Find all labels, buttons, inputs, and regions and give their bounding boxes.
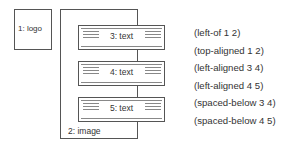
image-label: 2: image	[68, 126, 101, 136]
constraint-item: (left-of 1 2)	[194, 24, 276, 42]
constraint-item: (top-aligned 1 2)	[194, 42, 276, 60]
connector-line	[137, 9, 138, 25]
text-lines-icon	[145, 31, 161, 40]
constraint-item: (spaced-below 4 5)	[194, 112, 276, 130]
connector-line	[137, 121, 138, 139]
constraint-list: (left-of 1 2) (top-aligned 1 2) (left-al…	[194, 24, 276, 130]
text-box-5: 5: text	[78, 97, 165, 122]
connector-line	[137, 85, 138, 97]
constraint-item: (left-aligned 3 4)	[194, 59, 276, 77]
logo-label: 1: logo	[18, 24, 42, 33]
constraint-item: (spaced-below 3 4)	[194, 94, 276, 112]
text-lines-icon	[145, 67, 161, 76]
text-box-3: 3: text	[78, 25, 165, 50]
constraint-item: (left-aligned 4 5)	[194, 77, 276, 95]
connector-line	[137, 49, 138, 61]
logo-box: 1: logo	[14, 9, 52, 50]
text-box-4: 4: text	[78, 61, 165, 86]
text-lines-icon	[145, 103, 161, 112]
